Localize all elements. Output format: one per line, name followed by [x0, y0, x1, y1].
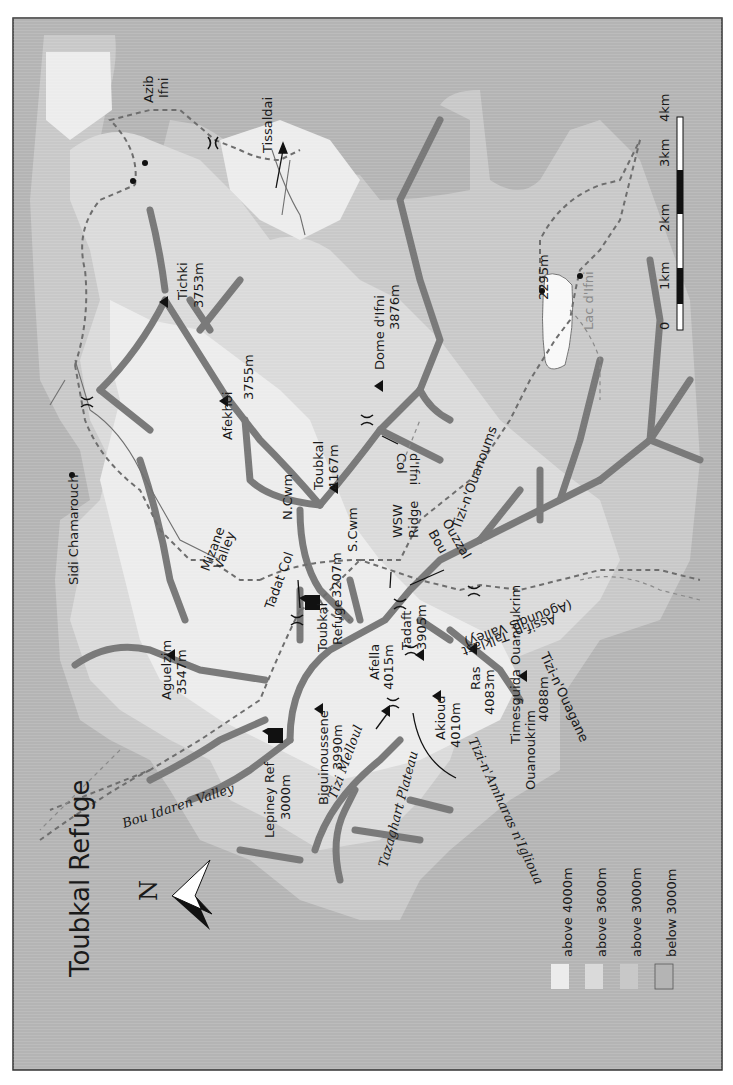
svg-text:2295m: 2295m — [536, 254, 551, 300]
legend-swatch-below-3000 — [655, 964, 673, 989]
svg-text:3000m: 3000m — [278, 774, 293, 820]
svg-text:Akioud: Akioud — [433, 696, 448, 740]
svg-text:above 3000m: above 3000m — [629, 867, 644, 957]
svg-text:Afekhoi: Afekhoi — [220, 392, 235, 440]
legend-swatch-above-4000 — [551, 964, 569, 989]
svg-text:Tichki: Tichki — [175, 262, 190, 301]
svg-text:3547m: 3547m — [174, 649, 189, 695]
svg-text:1km: 1km — [657, 262, 672, 290]
svg-text:Ridge: Ridge — [406, 501, 421, 538]
toubkal-map: Toubkal Refuge N Azib Ifni Tissaldai Tic… — [0, 0, 733, 1085]
svg-text:below 3000m: below 3000m — [664, 869, 679, 957]
map-title: Toubkal Refuge — [65, 780, 95, 978]
north-label: N — [135, 880, 163, 901]
svg-text:4167m: 4167m — [326, 444, 341, 490]
svg-text:2km: 2km — [657, 204, 672, 232]
svg-text:3753m: 3753m — [191, 262, 206, 308]
svg-text:Dome d'Ifni: Dome d'Ifni — [372, 295, 387, 370]
svg-text:Azib: Azib — [141, 75, 156, 103]
svg-text:Aguelzim: Aguelzim — [159, 640, 174, 700]
svg-text:above 3600m: above 3600m — [594, 867, 609, 957]
legend-swatch-above-3000 — [620, 964, 638, 989]
timesguida-label-2: Ouanoukrim — [523, 710, 538, 790]
legend-swatch-above-3600 — [585, 964, 603, 989]
svg-text:Refuge: Refuge — [330, 599, 345, 645]
svg-text:4088m: 4088m — [536, 676, 551, 722]
svg-text:3207m: 3207m — [329, 552, 344, 598]
svg-text:Ras: Ras — [468, 666, 483, 690]
svg-text:Sidi Chamarouch: Sidi Chamarouch — [66, 475, 81, 585]
svg-text:Lac d'Ifni: Lac d'Ifni — [581, 271, 596, 330]
svg-text:3km: 3km — [657, 139, 672, 167]
svg-text:Tissaldai: Tissaldai — [260, 97, 275, 154]
svg-text:3876m: 3876m — [387, 284, 402, 330]
svg-text:4km: 4km — [657, 94, 672, 122]
svg-text:Toubkal: Toubkal — [311, 441, 326, 491]
svg-text:Afella: Afella — [367, 644, 382, 680]
svg-text:Toubkal: Toubkal — [315, 603, 330, 653]
svg-text:Col: Col — [394, 453, 409, 474]
svg-text:N.Cwm: N.Cwm — [280, 474, 295, 520]
svg-text:3905m: 3905m — [414, 604, 429, 650]
svg-text:d'Ifni: d'Ifni — [407, 453, 422, 485]
svg-text:Ifni: Ifni — [156, 78, 171, 98]
svg-text:above 4000m: above 4000m — [560, 867, 575, 957]
svg-text:Tadaft: Tadaft — [399, 611, 414, 651]
svg-text:4083m: 4083m — [482, 669, 497, 715]
svg-text:4015m: 4015m — [381, 644, 396, 690]
svg-text:3755m: 3755m — [241, 354, 256, 400]
svg-text:Lepiney Ref: Lepiney Ref — [262, 762, 277, 838]
svg-text:WSW: WSW — [390, 504, 405, 538]
svg-text:S.Cwm: S.Cwm — [345, 507, 360, 552]
svg-text:0: 0 — [657, 322, 672, 330]
svg-text:4010m: 4010m — [448, 702, 463, 748]
svg-text:Timesguida Ouanoukrim: Timesguida Ouanoukrim — [508, 585, 523, 745]
